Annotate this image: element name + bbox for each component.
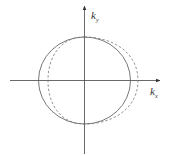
kx-label: kx [150,85,158,99]
ky-label: ky [91,9,99,23]
k-space-diagram: ky kx [0,0,169,156]
